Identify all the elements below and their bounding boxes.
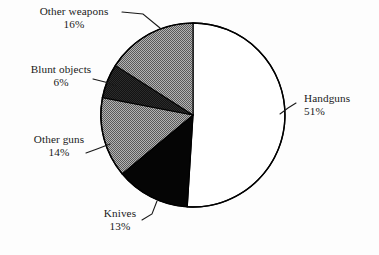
pie-label-other-guns-name: Other guns <box>7 133 111 146</box>
pie-label-other-guns: Other guns 14% <box>7 133 111 158</box>
pie-label-blunt-objects-name: Blunt objects <box>6 63 116 76</box>
pie-label-handguns-name: Handguns <box>304 92 376 105</box>
pie-slice-handguns[interactable] <box>187 23 285 207</box>
pie-label-knives-name: Knives <box>84 207 156 220</box>
pie-label-knives: Knives 13% <box>84 207 156 232</box>
pie-label-blunt-objects: Blunt objects 6% <box>6 63 116 88</box>
pie-slice-group <box>101 23 285 207</box>
pie-chart-canvas <box>0 0 379 255</box>
pie-label-blunt-objects-percent: 6% <box>6 76 116 89</box>
pie-label-other-weapons: Other weapons 16% <box>14 5 134 30</box>
pie-label-other-weapons-name: Other weapons <box>14 5 134 18</box>
pie-label-knives-percent: 13% <box>84 220 156 233</box>
pie-label-other-weapons-percent: 16% <box>14 18 134 31</box>
pie-label-other-guns-percent: 14% <box>7 146 111 159</box>
pie-chart-figure: Other weapons 16% Blunt objects 6% Other… <box>0 0 379 255</box>
pie-label-handguns: Handguns 51% <box>304 92 376 117</box>
pie-label-handguns-percent: 51% <box>304 105 376 118</box>
